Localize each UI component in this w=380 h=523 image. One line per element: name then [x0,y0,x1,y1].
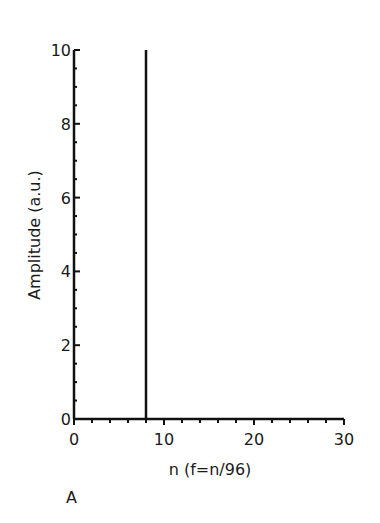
minor-ticks [74,50,344,425]
y-axis-label: Amplitude (a.u.) [25,170,44,300]
x-tick-labels: 0102030 [69,430,354,449]
x-tick-label: 20 [244,430,264,449]
y-tick-label: 8 [61,115,71,134]
y-tick-label: 6 [61,189,71,208]
y-tick-label: 2 [61,336,71,355]
panel-label: A [66,488,77,507]
y-tick-label: 4 [61,262,71,281]
x-tick-label: 30 [334,430,354,449]
amplitude-spectrum-chart: 0102030 0246810 n (f=n/96) Amplitude (a.… [0,0,380,523]
x-tick-label: 10 [154,430,174,449]
x-axis-label: n (f=n/96) [169,460,252,479]
y-tick-label: 0 [61,410,71,429]
y-tick-label: 10 [51,41,71,60]
axes [74,50,344,419]
x-tick-label: 0 [69,430,79,449]
y-tick-labels: 0246810 [51,41,71,429]
